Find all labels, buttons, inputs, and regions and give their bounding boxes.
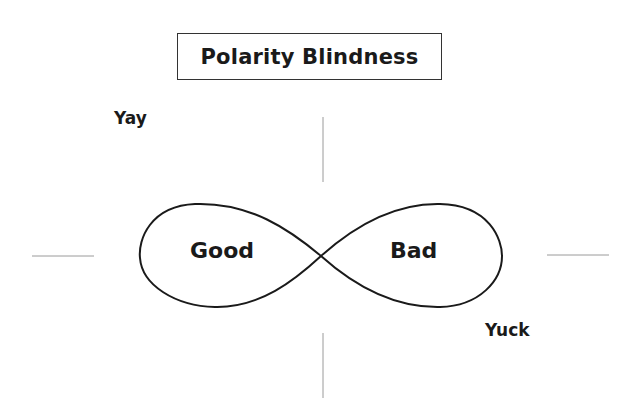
infinity-diagram [0, 0, 630, 413]
label-good: Good [190, 238, 254, 263]
label-bad: Bad [390, 238, 437, 263]
